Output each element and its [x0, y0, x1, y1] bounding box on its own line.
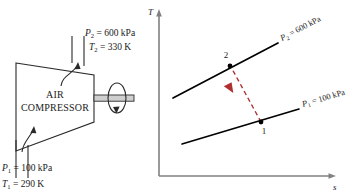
outlet-pressure-value: = 600 kPa: [94, 28, 136, 38]
inlet-pressure-value: = 100 kPa: [11, 163, 53, 173]
svg-text:P1 = 100 kPa: P1 = 100 kPa: [300, 88, 347, 111]
svg-text:T2 = 330 K: T2 = 330 K: [89, 42, 131, 53]
state-point-2-label: 2: [224, 50, 229, 60]
svg-text:P2 = 600 kPa: P2 = 600 kPa: [84, 28, 136, 39]
isobar-p1-value: = 100 kPa: [309, 88, 346, 107]
drive-shaft: [94, 95, 134, 101]
compressor-schematic: AIR COMPRESSOR P2 = 600 kPa T2 = 330 K P…: [1, 28, 136, 190]
isobar-label-p2: P2 = 600 kPa: [278, 14, 323, 44]
outlet-duct: [72, 36, 84, 66]
compression-process-path: [231, 67, 261, 122]
inlet-temperature-value: = 290 K: [11, 179, 45, 189]
outlet-temperature-label: T2 = 330 K: [89, 42, 131, 53]
inlet-pressure-label: P1 = 100 kPa: [1, 163, 53, 174]
state-point-1-label: 1: [262, 126, 267, 136]
compressor-body-label-line2: COMPRESSOR: [21, 102, 89, 113]
temperature-axis-label: T: [148, 7, 154, 17]
inlet-temperature-label: T1 = 290 K: [2, 179, 44, 190]
state-point-2-marker: [228, 64, 233, 69]
outlet-temperature-value: = 330 K: [98, 42, 132, 52]
compressor-body-label-line1: AIR: [46, 89, 64, 100]
state-point-1-marker: [259, 120, 264, 125]
isobar-line-p1: [182, 109, 299, 144]
svg-text:P1 = 100 kPa: P1 = 100 kPa: [1, 163, 53, 174]
entropy-axis-label: s: [333, 182, 337, 192]
isobar-label-p1: P1 = 100 kPa: [300, 88, 347, 111]
figure-container: AIR COMPRESSOR P2 = 600 kPa T2 = 330 K P…: [0, 0, 359, 194]
entropy-axis-arrowhead: [329, 173, 337, 179]
isobar-p2-value: = 600 kPa: [286, 14, 322, 39]
ts-diagram: T s P2 = 600 kPa P1 = 100 kPa: [148, 7, 347, 192]
compression-process-arrowhead: [224, 82, 234, 93]
temperature-axis-arrowhead: [156, 9, 162, 17]
outlet-pressure-label: P2 = 600 kPa: [84, 28, 136, 39]
figure-canvas: AIR COMPRESSOR P2 = 600 kPa T2 = 330 K P…: [0, 0, 359, 194]
svg-text:P2 = 600 kPa: P2 = 600 kPa: [278, 14, 323, 44]
svg-text:T1 = 290 K: T1 = 290 K: [2, 179, 44, 190]
outlet-flow-arrowhead: [75, 62, 81, 69]
